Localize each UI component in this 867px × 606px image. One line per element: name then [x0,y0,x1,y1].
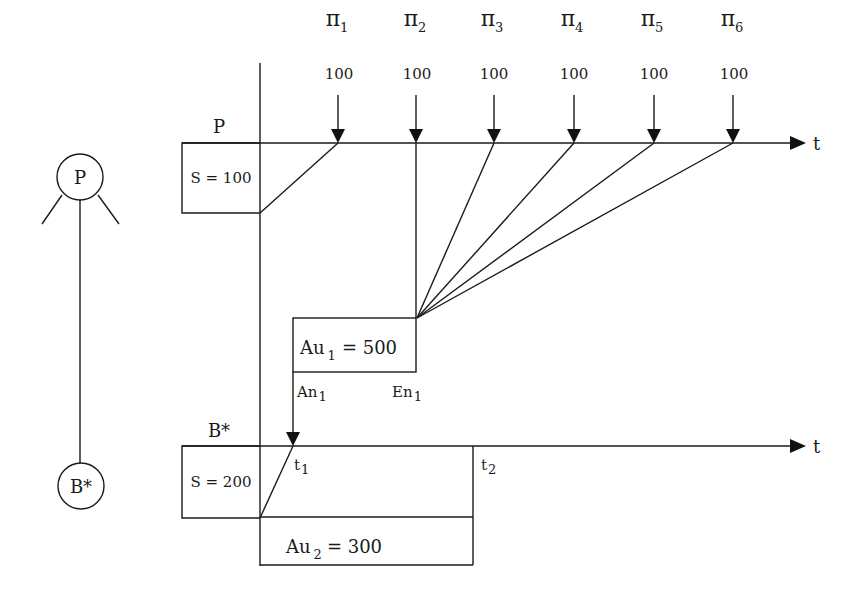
svg-text:π5: π5 [641,6,664,35]
svg-text:π3: π3 [481,6,504,35]
upper-stock-box-label: S = 100 [190,169,251,187]
arrival-value: 100 [480,65,509,83]
tree-branch-right [98,195,119,224]
tree: P B* [42,154,119,509]
arrival-arrow-icon [567,129,581,143]
lower-stock-box-label: S = 200 [190,473,251,491]
arrival-arrow-icon [647,129,661,143]
arrival-pi-4: π4 100 [560,6,589,143]
upper-axis-label: t [813,133,821,154]
delivery-arrow-icon [286,432,300,446]
arrival-value: 100 [403,65,432,83]
order-end-label: En1 [392,383,422,404]
arrival-pi-5: π5 100 [640,6,669,143]
lower-axis-label: t [813,436,821,457]
arrival-arrow-icon [331,129,345,143]
upper-axis-arrow-icon [790,136,806,150]
fan-line-6 [417,143,733,318]
node-p-label: P [74,167,86,188]
fan-line-4 [417,143,574,318]
arrival-pi-1: π1 100 [325,6,354,143]
order-box-1: Au1= 500 An1 En1 [286,318,422,446]
arrival-value: 100 [560,65,589,83]
lower-depletion-line [260,446,293,518]
tree-branch-left [42,195,62,224]
arrival-pi-6: π6 100 [720,6,749,143]
lower-timeline-label: B* [208,420,230,441]
arrival-pi-3: π3 100 [480,6,509,143]
order-box-1-label: Au1= 500 [299,337,397,363]
order-box-2: Au2= 300 [285,536,382,562]
t2-label: t2 [481,456,496,477]
upper-timeline: P t S = 100 π1 100 π2 100 π3 100 π4 [182,6,821,318]
svg-text:π4: π4 [561,6,584,35]
arrival-pi-2: π2 100 [403,6,432,143]
fan-line-3 [417,143,494,318]
svg-text:π1: π1 [326,6,349,35]
lower-timeline: B* t S = 200 t1 t2 [182,420,821,565]
upper-depletion-line [260,143,338,213]
arrival-value: 100 [325,65,354,83]
lower-axis-arrow-icon [790,439,806,453]
inventory-timeline-diagram: P B* P t S = 100 π1 100 π2 100 [0,0,867,606]
svg-text:π2: π2 [404,6,427,35]
arrival-arrow-icon [726,129,740,143]
t1-label: t1 [294,456,309,477]
arrival-arrow-icon [409,129,423,143]
svg-text:π6: π6 [721,6,744,35]
upper-timeline-label: P [213,116,225,137]
node-bstar-label: B* [70,476,92,497]
arrival-value: 100 [640,65,669,83]
order-box-2-label: Au2= 300 [285,536,382,562]
fan-line-5 [417,143,654,318]
order-start-label: An1 [296,383,327,404]
arrival-arrow-icon [487,129,501,143]
arrival-value: 100 [720,65,749,83]
